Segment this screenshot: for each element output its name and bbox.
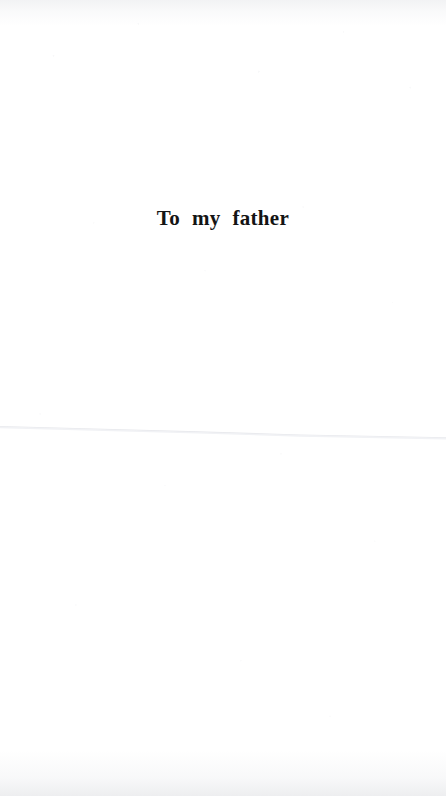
paper-texture	[0, 0, 446, 796]
scan-edge-shadow-top	[0, 0, 446, 26]
scan-edge-shadow-bottom	[0, 750, 446, 796]
dedication-page: To my father	[0, 0, 446, 796]
dedication-text: To my father	[0, 208, 446, 229]
page-fold-line	[0, 424, 446, 440]
